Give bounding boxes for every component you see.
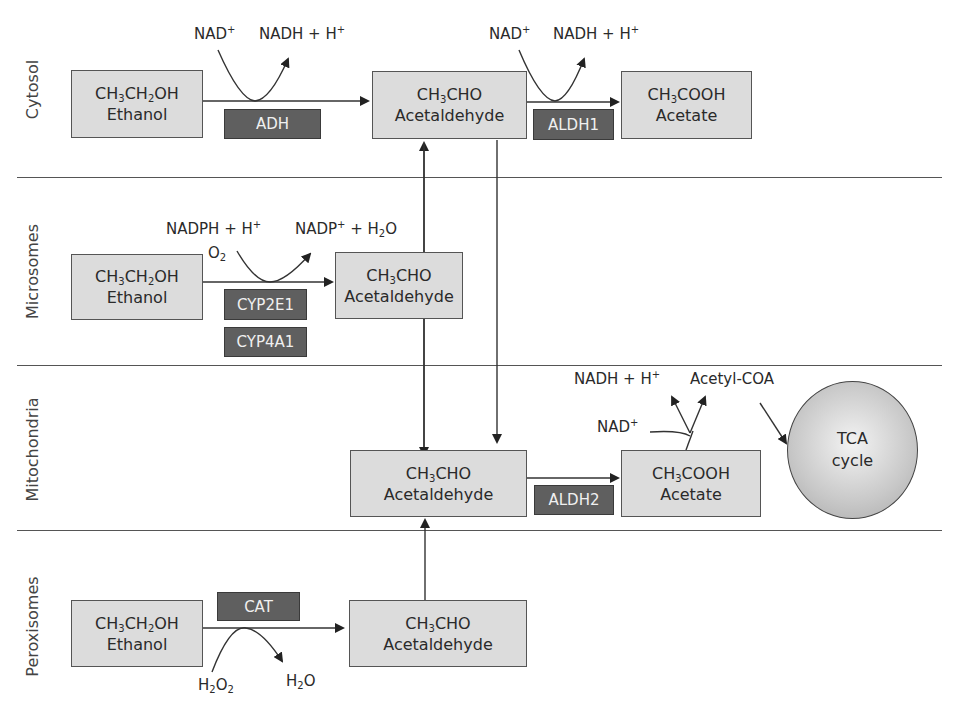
- peroxisomes-acetaldehyde-box: CH3CHO Acetaldehyde: [349, 600, 527, 667]
- cytosol-acetaldehyde-box: CH3CHO Acetaldehyde: [372, 71, 527, 139]
- ethanol-formula: CH3CH2OH: [95, 266, 179, 287]
- acetate-name: Acetate: [660, 484, 722, 505]
- acetate-name: Acetate: [656, 105, 718, 126]
- enzyme-aldh2: ALDH2: [534, 485, 614, 515]
- enzyme-cyp4a1: CYP4A1: [224, 327, 307, 357]
- cytosol-ethanol-box: CH3CH2OH Ethanol: [71, 70, 203, 138]
- acetaldehyde-name: Acetaldehyde: [384, 484, 493, 505]
- cofactor-o2-microsomes: O2: [208, 244, 226, 262]
- tca-label-line2: cycle: [832, 450, 873, 472]
- enzyme-adh: ADH: [224, 109, 321, 139]
- acetaldehyde-name: Acetaldehyde: [395, 105, 504, 126]
- cofactor-nadh-cytosol-adh: NADH + H+: [259, 25, 345, 43]
- cofactor-nad-cytosol-adh: NAD+: [194, 25, 235, 43]
- ethanol-formula: CH3CH2OH: [95, 613, 179, 634]
- cofactor-nadp-h2o-microsomes: NADP+ + H2O: [295, 220, 397, 238]
- acetate-formula: CH3COOH: [648, 84, 726, 105]
- acetaldehyde-formula: CH3CHO: [406, 463, 471, 484]
- ethanol-formula: CH3CH2OH: [95, 83, 179, 104]
- ethanol-name: Ethanol: [107, 634, 168, 655]
- acetaldehyde-formula: CH3CHO: [417, 84, 482, 105]
- cofactor-nad-mitochondria: NAD+: [597, 418, 638, 436]
- cytosol-acetate-box: CH3COOH Acetate: [621, 71, 752, 139]
- acetaldehyde-name: Acetaldehyde: [383, 634, 492, 655]
- acetaldehyde-formula: CH3CHO: [405, 613, 470, 634]
- tca-label-line1: TCA: [837, 428, 868, 450]
- cofactor-nadh-mitochondria: NADH + H+: [574, 370, 660, 388]
- product-h2o-peroxisomes: H2O: [286, 672, 315, 690]
- ethanol-name: Ethanol: [107, 287, 168, 308]
- tca-cycle-circle: TCA cycle: [787, 381, 918, 519]
- acetaldehyde-formula: CH3CHO: [366, 265, 431, 286]
- cofactor-nadph-microsomes: NADPH + H+: [166, 220, 261, 238]
- microsomes-acetaldehyde-box: CH3CHO Acetaldehyde: [335, 252, 463, 319]
- enzyme-aldh1: ALDH1: [533, 109, 614, 140]
- mitochondria-acetaldehyde-box: CH3CHO Acetaldehyde: [350, 450, 527, 517]
- cofactor-nad-cytosol-aldh1: NAD+: [489, 25, 530, 43]
- acetaldehyde-name: Acetaldehyde: [344, 286, 453, 307]
- enzyme-cyp2e1: CYP2E1: [224, 289, 307, 320]
- microsomes-ethanol-box: CH3CH2OH Ethanol: [71, 254, 203, 320]
- product-acetyl-coa: Acetyl-COA: [690, 370, 774, 388]
- cofactor-h2o2-peroxisomes: H2O2: [198, 676, 234, 694]
- enzyme-cat: CAT: [217, 592, 300, 621]
- ethanol-name: Ethanol: [107, 104, 168, 125]
- mitochondria-acetate-box: CH3COOH Acetate: [621, 450, 761, 517]
- acetate-formula: CH3COOH: [652, 463, 730, 484]
- peroxisomes-ethanol-box: CH3CH2OH Ethanol: [71, 600, 203, 667]
- cofactor-nadh-cytosol-aldh1: NADH + H+: [553, 25, 639, 43]
